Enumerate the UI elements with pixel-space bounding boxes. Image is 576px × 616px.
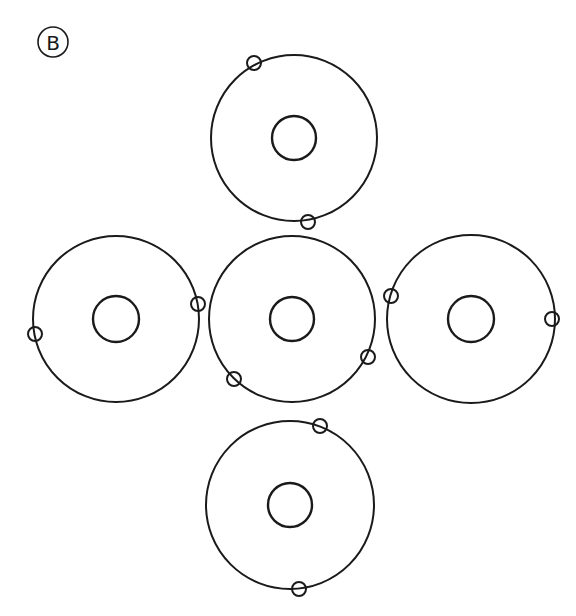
nucleus — [270, 297, 314, 341]
atom-left — [28, 236, 205, 402]
electron-shell — [387, 235, 555, 403]
figure-label: B — [38, 27, 68, 57]
electron — [301, 215, 315, 229]
label-letter: B — [46, 31, 60, 55]
nucleus — [93, 296, 139, 342]
atom-right — [384, 235, 559, 403]
atoms-group — [28, 55, 559, 596]
atom-diagram: B — [0, 0, 576, 616]
atom-bottom — [206, 419, 374, 596]
nucleus — [448, 296, 494, 342]
electron-shell — [211, 55, 377, 221]
electron-shell — [209, 236, 375, 402]
nucleus — [268, 483, 312, 527]
electron — [545, 312, 559, 326]
nucleus — [272, 116, 316, 160]
atom-center — [209, 236, 375, 402]
electron-shell — [206, 421, 374, 589]
electron-shell — [33, 236, 199, 402]
atom-top — [211, 55, 377, 229]
